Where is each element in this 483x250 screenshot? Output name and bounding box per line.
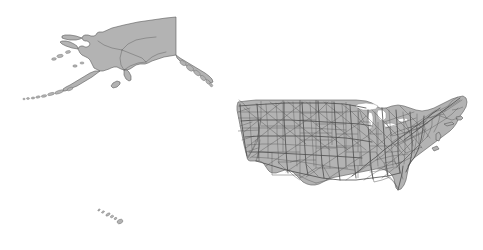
map-figure: United States Grayscale map of the Unite… (0, 0, 483, 250)
cape-cod (456, 116, 463, 120)
united-states-map-canvas (0, 0, 483, 250)
